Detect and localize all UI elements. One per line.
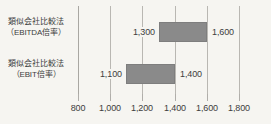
range-bar-ebit: [126, 64, 175, 84]
category-label-ebit: 類似会社比較法 （EBIT倍率）: [0, 58, 72, 80]
x-tick-1800: [239, 94, 240, 101]
x-axis: 800 1,000 1,200 1,400 1,600 1,800: [78, 94, 240, 124]
range-bar-ebit-low-label: 1,100: [86, 64, 124, 84]
plot-area: 1,300 1,600 1,100 1,400: [78, 6, 240, 94]
category-label-ebit-line1: 類似会社比較法: [0, 58, 72, 69]
x-tick-label-800: 800: [71, 102, 86, 114]
category-label-ebitda-line1: 類似会社比較法: [0, 16, 72, 27]
x-tick-1000: [110, 94, 111, 101]
range-bar-ebit-high-label: 1,400: [178, 64, 218, 84]
x-tick-1600: [207, 94, 208, 101]
category-label-ebit-line2: （EBIT倍率）: [0, 69, 72, 80]
range-bar-ebitda-high-label: 1,600: [210, 22, 250, 42]
gridline-1800: [239, 6, 240, 94]
x-tick-label-1600: 1,600: [196, 102, 218, 114]
valuation-range-bar-chart: 類似会社比較法 （EBITDA倍率） 類似会社比較法 （EBIT倍率） 1,30…: [0, 0, 271, 124]
x-tick-label-1200: 1,200: [131, 102, 153, 114]
category-label-ebitda: 類似会社比較法 （EBITDA倍率）: [0, 16, 72, 38]
gridline-1400: [175, 6, 176, 94]
x-tick-label-1800: 1,800: [228, 102, 250, 114]
category-label-ebitda-line2: （EBITDA倍率）: [0, 27, 72, 38]
category-axis-labels: 類似会社比較法 （EBITDA倍率） 類似会社比較法 （EBIT倍率）: [0, 0, 78, 94]
range-bar-ebitda: [159, 22, 207, 42]
x-tick-1200: [142, 94, 143, 101]
x-tick-label-1400: 1,400: [164, 102, 186, 114]
x-tick-label-1000: 1,000: [99, 102, 121, 114]
x-tick-800: [78, 94, 79, 101]
range-bar-ebitda-low-label: 1,300: [119, 22, 157, 42]
x-tick-1400: [175, 94, 176, 101]
gridline-800: [78, 6, 79, 94]
